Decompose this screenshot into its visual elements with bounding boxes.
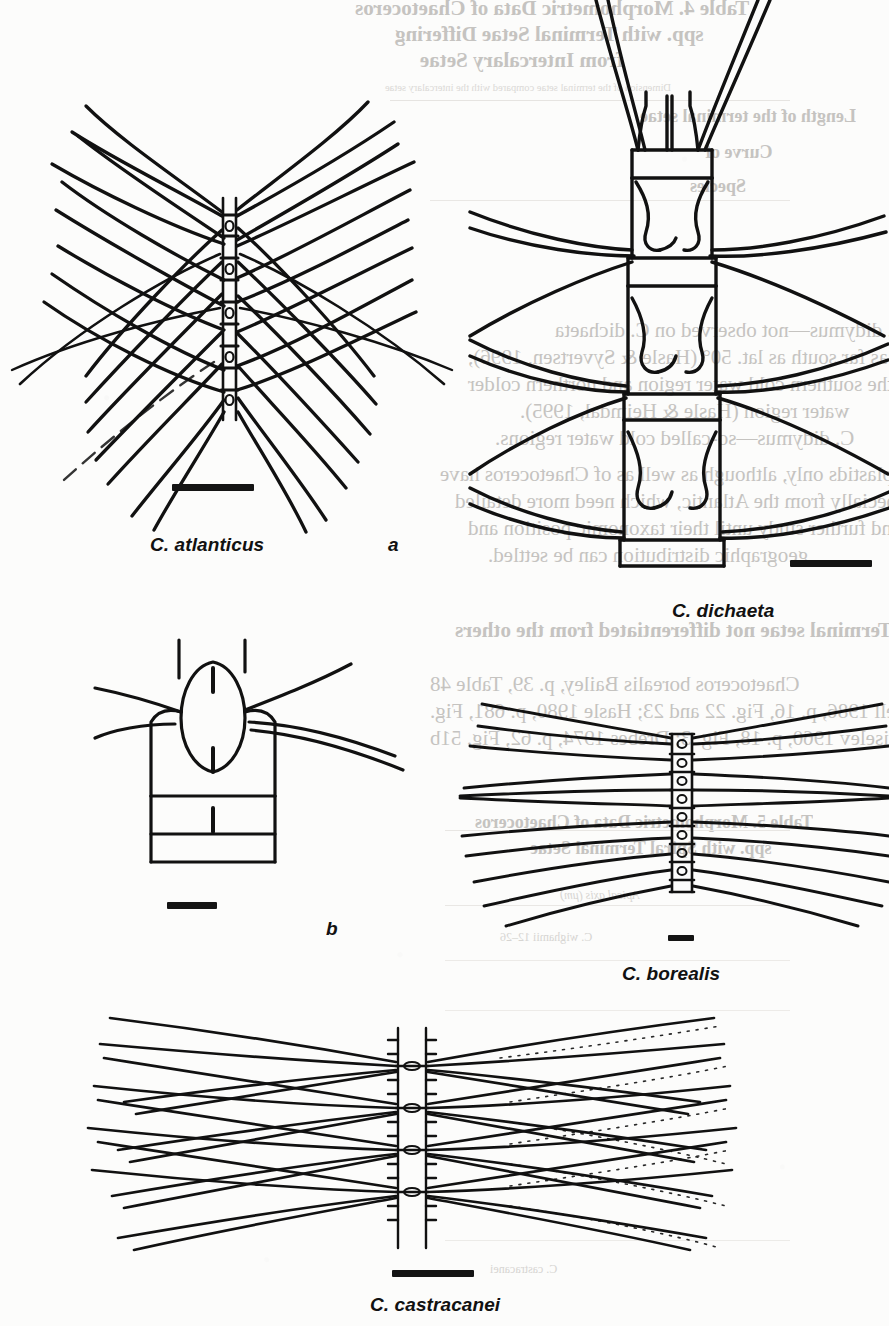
figure-terminal-detail	[95, 600, 425, 900]
caption-c-atlanticus: C. atlanticus	[150, 534, 264, 556]
panel-letter-b: b	[326, 918, 338, 940]
scanned-page: Table 4. Morphometric Data of Chaetocero…	[0, 0, 889, 1326]
scalebar-c-castracanei	[392, 1270, 474, 1277]
scalebar-c-dichaeta	[790, 560, 872, 567]
scalebar-terminal-detail	[167, 902, 217, 909]
caption-c-castracanei: C. castracanei	[370, 1294, 500, 1316]
scalebar-c-atlanticus	[172, 484, 254, 491]
caption-c-dichaeta: C. dichaeta	[672, 600, 774, 622]
bleed-rule	[445, 960, 790, 961]
caption-c-borealis: C. borealis	[622, 963, 720, 985]
figure-c-atlanticus	[0, 40, 470, 540]
figure-c-castracanei	[80, 1010, 840, 1260]
figure-c-dichaeta	[470, 0, 889, 580]
panel-letter-a: a	[388, 534, 399, 556]
bleed-line: C. wighamii 12–26	[500, 930, 592, 945]
figure-c-borealis	[460, 700, 889, 930]
bleed-line: C. castracanei	[490, 1262, 557, 1277]
bleed-line: Chaetoceros borealis Bailey, p. 39, Tabl…	[430, 672, 799, 697]
scalebar-c-borealis	[668, 935, 694, 941]
